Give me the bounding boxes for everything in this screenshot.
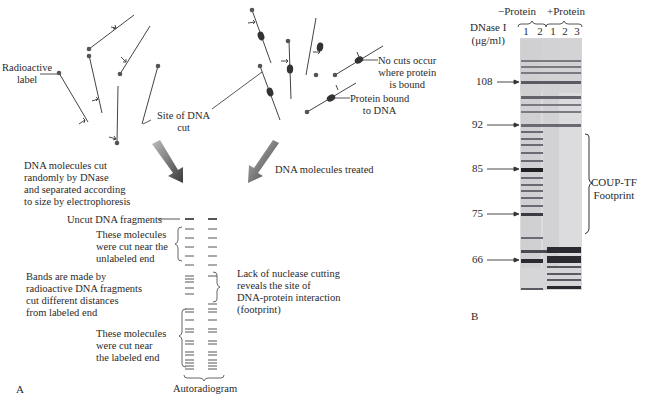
site-of-dna-cut-text: Site of DNA cut [157, 110, 210, 134]
label-line: to size by electrophoresis [24, 196, 130, 208]
panel-a-label: A [16, 383, 24, 395]
minus-protein-header: −Protein [498, 5, 536, 18]
label-line: unlabeled end [96, 253, 168, 265]
label-line: the labeled end [96, 352, 166, 364]
marker-75: 75 [472, 207, 483, 220]
dna-molecules-treated-text: DNA molecules treated [275, 164, 374, 176]
panel-b-label: B [471, 310, 478, 322]
cut-near-labeled-end-text: These molecules were cut near the labele… [96, 328, 166, 364]
protein-dna-radioactive-markers [250, 8, 338, 115]
label-line: Bands are made by [26, 271, 142, 283]
label-line: from labeled end [26, 307, 142, 319]
autoradiogram-lane-1 [185, 219, 194, 369]
lane-number: 2 [562, 25, 568, 38]
marker-108: 108 [476, 75, 493, 88]
label-line: is bound [378, 79, 436, 91]
dna-cut-randomly-text: DNA molecules cut randomly by DNase and … [24, 160, 130, 208]
autoradiogram-bottom-brace [184, 375, 224, 381]
label-line: (footprint) [237, 304, 341, 316]
size-marker-arrows [487, 80, 519, 262]
uncut-dna-fragments-text: Uncut DNA fragments [67, 214, 162, 226]
gel-image [520, 38, 582, 290]
label-line: These molecules [96, 328, 166, 340]
lane-number: 1 [550, 25, 556, 38]
label-line: DNA molecules cut [24, 160, 130, 172]
label-line: cut different distances [26, 295, 142, 307]
dnase-concentration-label: DNase I (μg/ml) [470, 21, 506, 47]
label-line: cut [157, 122, 210, 134]
label-line: Site of DNA [157, 110, 210, 122]
label-line: were cut near [96, 340, 166, 352]
label-line: These molecules [96, 229, 168, 241]
label-line: to DNA [350, 105, 409, 117]
left-process-arrow [152, 140, 183, 183]
label-line: Radioactive [2, 62, 52, 74]
lane-number: 3 [574, 25, 580, 38]
cut-site-arrows [79, 25, 143, 140]
labeled-end-bracket [179, 309, 186, 367]
label-line: Lack of nuclease cutting [237, 268, 341, 280]
minus-protein-lane-numbers: 1 2 [519, 25, 547, 38]
coup-tf-footprint-label: COUP-TF Footprint [591, 176, 637, 202]
label-line: DNA-protein interaction [237, 292, 341, 304]
marker-85: 85 [472, 162, 483, 175]
lack-of-nuclease-cutting-text: Lack of nuclease cutting reveals the sit… [237, 268, 341, 316]
label-line: and separated according [24, 184, 130, 196]
protein-bound-text: Protein bound to DNA [350, 93, 409, 117]
unlabeled-end-bracket [175, 227, 182, 261]
label-line: (μg/ml) [470, 34, 506, 47]
cut-near-unlabeled-end-text: These molecules were cut near the unlabe… [96, 229, 168, 265]
label-line: reveals the site of [237, 280, 341, 292]
plus-protein-lane-numbers: 1 2 3 [547, 25, 583, 38]
label-line: radioactive DNA fragments [26, 283, 142, 295]
no-cuts-occur-text: No cuts occur where protein is bound [378, 55, 436, 91]
label-line: Protein bound [350, 93, 409, 105]
marker-92: 92 [472, 118, 483, 131]
bands-made-by-text: Bands are made by radioactive DNA fragme… [26, 271, 142, 319]
label-line: where protein [378, 67, 436, 79]
lane-number: 1 [523, 25, 529, 38]
label-line: Footprint [591, 189, 637, 202]
marker-66: 66 [472, 253, 483, 266]
right-process-arrow [248, 140, 279, 183]
label-line: No cuts occur [378, 55, 436, 67]
label-line: COUP-TF [591, 176, 637, 189]
autoradiogram-label: Autoradiogram [173, 383, 237, 395]
plus-protein-header: +Protein [547, 5, 585, 18]
lane-number: 2 [537, 25, 543, 38]
label-line: randomly by DNase [24, 172, 130, 184]
autoradiogram-lane-2 [208, 219, 217, 369]
label-line: DNase I [470, 21, 506, 34]
radioactive-label-text: Radioactive label [2, 62, 52, 86]
label-line: label [2, 74, 52, 86]
label-line: were cut near the [96, 241, 168, 253]
